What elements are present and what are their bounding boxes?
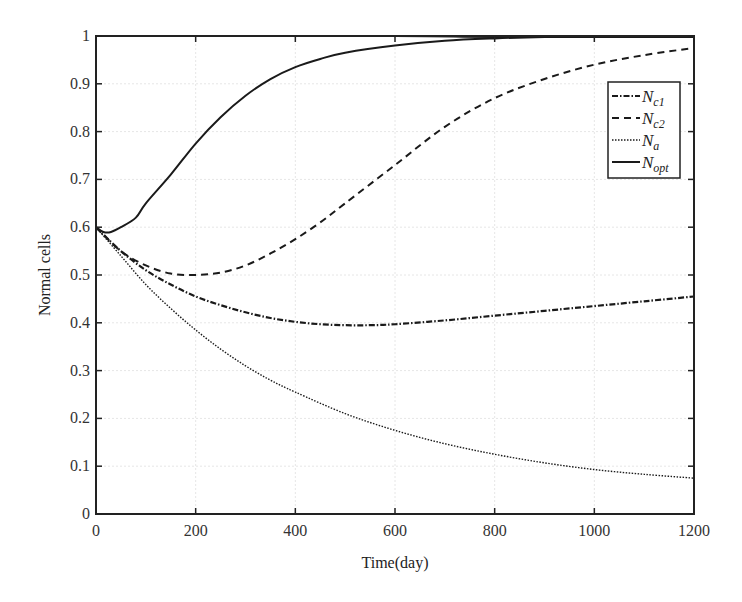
x-tick-label: 1000 <box>578 522 610 539</box>
x-axis-label: Time(day) <box>362 554 429 572</box>
x-tick-label: 1200 <box>678 522 710 539</box>
x-tick-label: 200 <box>184 522 208 539</box>
x-tick-label: 400 <box>283 522 307 539</box>
y-tick-label: 0.1 <box>70 457 90 474</box>
y-tick-label: 0.7 <box>70 170 90 187</box>
y-tick-label: 0.5 <box>70 266 90 283</box>
y-tick-label: 0 <box>82 505 90 522</box>
y-axis-label: Normal cells <box>36 234 53 316</box>
y-tick-labels: 00.10.20.30.40.50.60.70.80.91 <box>70 27 90 522</box>
x-tick-label: 600 <box>383 522 407 539</box>
y-tick-label: 0.8 <box>70 123 90 140</box>
y-tick-label: 0.4 <box>70 314 90 331</box>
grid-lines <box>96 36 694 514</box>
x-tick-label: 800 <box>483 522 507 539</box>
y-tick-label: 0.2 <box>70 409 90 426</box>
y-tick-label: 1 <box>82 27 90 44</box>
y-tick-label: 0.6 <box>70 218 90 235</box>
legend: Nc1Nc2NaNopt <box>608 82 680 178</box>
x-tick-label: 0 <box>92 522 100 539</box>
line-chart: 020040060080010001200 00.10.20.30.40.50.… <box>0 0 742 602</box>
x-tick-labels: 020040060080010001200 <box>92 522 710 539</box>
y-tick-label: 0.3 <box>70 362 90 379</box>
y-tick-label: 0.9 <box>70 75 90 92</box>
